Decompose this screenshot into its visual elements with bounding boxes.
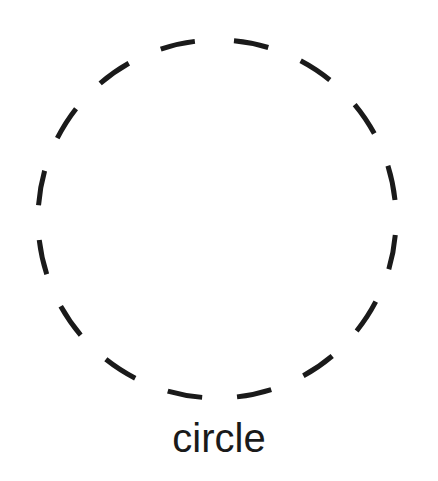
- diagram-canvas: [0, 0, 438, 481]
- dashed-circle: [38, 40, 396, 398]
- shape-label: circle: [0, 414, 438, 462]
